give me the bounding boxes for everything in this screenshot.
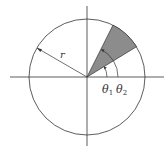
- radius-arrowhead-icon: [37, 48, 42, 52]
- theta1-label: θ1: [102, 83, 113, 97]
- theta2-label: θ2: [116, 83, 127, 97]
- radius-label: r: [60, 49, 66, 60]
- shaded-sector: [87, 25, 137, 77]
- polar-sector-diagram: r θ1 θ2: [0, 0, 166, 151]
